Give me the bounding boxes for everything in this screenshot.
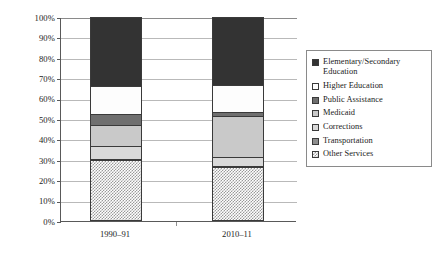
bar-segment-public-assistance (212, 112, 264, 116)
y-axis-label: 0% (7, 218, 55, 227)
y-axis-label: 30% (7, 157, 55, 166)
bar-segment-public-assistance (90, 114, 142, 125)
y-axis-tick (57, 120, 61, 121)
bar-2010-11 (212, 17, 264, 221)
bar-segment-transportation (90, 159, 142, 160)
bar-segment-corrections (212, 157, 264, 166)
y-axis-tick (57, 181, 61, 182)
y-axis-tick (57, 202, 61, 203)
legend-label: Other Services (323, 149, 373, 159)
legend-label: Corrections (323, 122, 363, 132)
legend-item-transportation[interactable]: Transportation (312, 136, 427, 146)
bar-1990-91 (90, 17, 142, 221)
legend: Elementary/Secondary EducationHigher Edu… (306, 50, 432, 167)
legend-swatch-public-assistance-icon (312, 97, 319, 104)
y-axis-tick (57, 140, 61, 141)
bar-segment-elementary-secondary-education (90, 17, 142, 86)
legend-label: Higher Education (323, 81, 383, 91)
bar-segment-higher-education (212, 85, 264, 112)
y-axis-tick (57, 100, 61, 101)
legend-swatch-transportation-icon (312, 138, 319, 145)
y-axis-label: 90% (7, 34, 55, 43)
y-axis-label: 80% (7, 55, 55, 64)
y-axis-label: 40% (7, 136, 55, 145)
x-axis-label: 2010–11 (192, 229, 282, 239)
y-axis-label: 20% (7, 177, 55, 186)
bar-segment-medicaid (90, 125, 142, 145)
legend-item-medicaid[interactable]: Medicaid (312, 108, 427, 118)
y-axis-label: 100% (7, 14, 55, 23)
y-axis-label: 10% (7, 197, 55, 206)
bar-segment-higher-education (90, 86, 142, 114)
y-axis-tick (57, 38, 61, 39)
legend-swatch-corrections-icon (312, 124, 319, 131)
bar-segment-other-services (212, 167, 264, 221)
stacked-bar-chart: 100%90%80%70%60%50%40%30%20%10%0% 1990–9… (0, 0, 437, 257)
legend-swatch-elementary-secondary-education-icon (312, 59, 319, 66)
plot-area (60, 18, 296, 222)
legend-label: Elementary/Secondary Education (323, 57, 427, 77)
x-axis-tick (176, 222, 177, 226)
y-axis-tick (57, 18, 61, 19)
legend-item-other-services[interactable]: Other Services (312, 149, 427, 159)
x-axis-label: 1990–91 (70, 229, 160, 239)
y-axis-tick (57, 161, 61, 162)
legend-swatch-medicaid-icon (312, 110, 319, 117)
legend-item-elementary-secondary-education[interactable]: Elementary/Secondary Education (312, 57, 427, 77)
legend-swatch-higher-education-icon (312, 83, 319, 90)
bar-segment-transportation (212, 166, 264, 167)
y-axis-label: 60% (7, 95, 55, 104)
y-axis-tick (57, 222, 61, 223)
bar-segment-elementary-secondary-education (212, 17, 264, 85)
y-axis-tick (57, 79, 61, 80)
y-axis-label: 50% (7, 116, 55, 125)
legend-label: Public Assistance (323, 95, 383, 105)
legend-label: Transportation (323, 136, 373, 146)
legend-item-public-assistance[interactable]: Public Assistance (312, 95, 427, 105)
bar-segment-corrections (90, 146, 142, 159)
legend-item-higher-education[interactable]: Higher Education (312, 81, 427, 91)
legend-label: Medicaid (323, 108, 355, 118)
legend-swatch-other-services-icon (312, 151, 319, 158)
y-axis-tick (57, 59, 61, 60)
bar-segment-other-services (90, 160, 142, 221)
legend-item-corrections[interactable]: Corrections (312, 122, 427, 132)
bar-segment-medicaid (212, 116, 264, 157)
y-axis-label: 70% (7, 75, 55, 84)
